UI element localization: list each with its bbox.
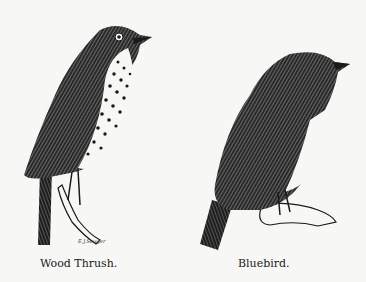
wood-thrush-drawing: E.J.Sawyer bbox=[24, 26, 152, 245]
bluebird-caption: Bluebird. bbox=[238, 257, 290, 270]
bluebird-drawing bbox=[200, 52, 350, 250]
wood-thrush-caption: Wood Thrush. bbox=[40, 257, 117, 270]
artist-signature: E.J.Sawyer bbox=[77, 238, 106, 245]
bird-illustrations: E.J.Sawyer bbox=[0, 0, 366, 282]
